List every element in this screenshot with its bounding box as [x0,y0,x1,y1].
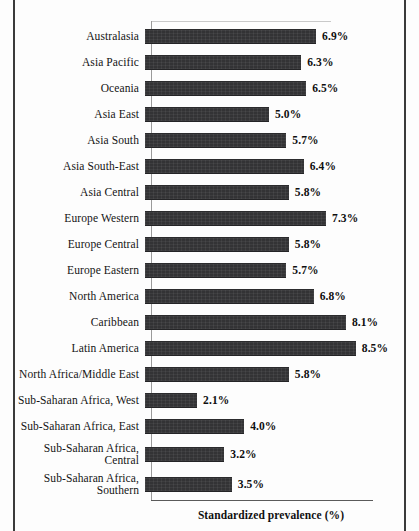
bar [145,393,197,408]
bar-value-label: 3.2% [230,448,256,460]
bar [145,185,289,200]
bar [145,107,269,122]
bar-row: Asia South5.7% [0,127,419,153]
bar-value-label: 8.1% [352,316,378,328]
bar-row: Latin America8.5% [0,335,419,361]
bar-value-label: 5.8% [295,238,321,250]
bar [145,263,286,278]
bar [145,367,289,382]
figure-container: Australasia6.9%Asia Pacific6.3%Oceania6.… [0,0,419,531]
category-label: Asia Pacific [0,56,145,69]
bar-track: 4.0% [145,413,419,439]
bar-track: 5.8% [145,179,419,205]
bar-row: North America6.8% [0,283,419,309]
bar [145,55,301,70]
bar [145,447,224,462]
bar-track: 6.9% [145,23,419,49]
bar-row: North Africa/Middle East5.8% [0,361,419,387]
category-label: North America [0,290,145,303]
category-label: Europe Eastern [0,264,145,277]
bar-value-label: 5.0% [275,108,301,120]
bar-track: 8.1% [145,309,419,335]
bar-chart-plot-area: Australasia6.9%Asia Pacific6.3%Oceania6.… [0,0,419,531]
bar-value-label: 5.7% [292,134,318,146]
bar [145,419,244,434]
bar-row: Asia East5.0% [0,101,419,127]
bar [145,315,346,330]
bar [145,29,316,44]
category-label: Oceania [0,82,145,95]
category-label: Caribbean [0,316,145,329]
bar-row: Asia South-East6.4% [0,153,419,179]
bar-track: 6.8% [145,283,419,309]
category-label: Europe Western [0,212,145,225]
bar-row-list: Australasia6.9%Asia Pacific6.3%Oceania6.… [0,23,419,499]
bar-track: 6.5% [145,75,419,101]
bar-value-label: 2.1% [203,394,229,406]
bar-track: 6.3% [145,49,419,75]
bar-value-label: 8.5% [362,342,388,354]
category-label: Asia East [0,108,145,121]
bar [145,211,326,226]
bar-value-label: 5.8% [295,368,321,380]
bar-track: 6.4% [145,153,419,179]
bar-value-label: 4.0% [250,420,276,432]
bar-track: 5.8% [145,361,419,387]
bar-track: 5.7% [145,257,419,283]
bar [145,341,356,356]
bar-track: 5.8% [145,231,419,257]
bar-value-label: 6.3% [307,56,333,68]
bar-value-label: 5.8% [295,186,321,198]
bar-row: Caribbean8.1% [0,309,419,335]
category-label: Sub-Saharan Africa, Central [0,442,145,467]
category-label: Europe Central [0,238,145,251]
bar-track: 3.2% [145,439,419,469]
category-label: Sub-Saharan Africa, West [0,394,145,407]
bar-row: Sub-Saharan Africa, Central3.2% [0,439,419,469]
bar-row: Oceania6.5% [0,75,419,101]
bar-row: Asia Pacific6.3% [0,49,419,75]
bar-track: 5.7% [145,127,419,153]
bar-value-label: 6.4% [310,160,336,172]
bar [145,81,306,96]
bar-row: Asia Central5.8% [0,179,419,205]
bar-row: Sub-Saharan Africa, West2.1% [0,387,419,413]
value-axis-baseline [151,500,373,501]
bar-value-label: 6.5% [312,82,338,94]
bar-row: Australasia6.9% [0,23,419,49]
bar [145,237,289,252]
x-axis-label: Standardized prevalence (%) [151,509,391,521]
category-label: North Africa/Middle East [0,368,145,381]
category-label: Latin America [0,342,145,355]
bar [145,133,286,148]
bar [145,289,314,304]
category-label: Asia South-East [0,160,145,173]
bar-row: Sub-Saharan Africa, Southern3.5% [0,469,419,499]
bar-track: 8.5% [145,335,419,361]
bar-row: Europe Western7.3% [0,205,419,231]
category-label: Sub-Saharan Africa, East [0,420,145,433]
bar-track: 7.3% [145,205,419,231]
bar-track: 3.5% [145,469,419,499]
bar-row: Europe Eastern5.7% [0,257,419,283]
bar-value-label: 6.8% [320,290,346,302]
bar-row: Sub-Saharan Africa, East4.0% [0,413,419,439]
category-label: Sub-Saharan Africa, Southern [0,472,145,497]
bar-value-label: 7.3% [332,212,358,224]
category-label: Asia South [0,134,145,147]
bar-track: 5.0% [145,101,419,127]
bar-value-label: 6.9% [322,30,348,42]
bar-row: Europe Central5.8% [0,231,419,257]
bar [145,477,232,492]
category-label: Asia Central [0,186,145,199]
bar-track: 2.1% [145,387,419,413]
bar [145,159,304,174]
plot-top-gridline [151,21,331,22]
bar-value-label: 5.7% [292,264,318,276]
category-label: Australasia [0,30,145,43]
bar-value-label: 3.5% [238,478,264,490]
